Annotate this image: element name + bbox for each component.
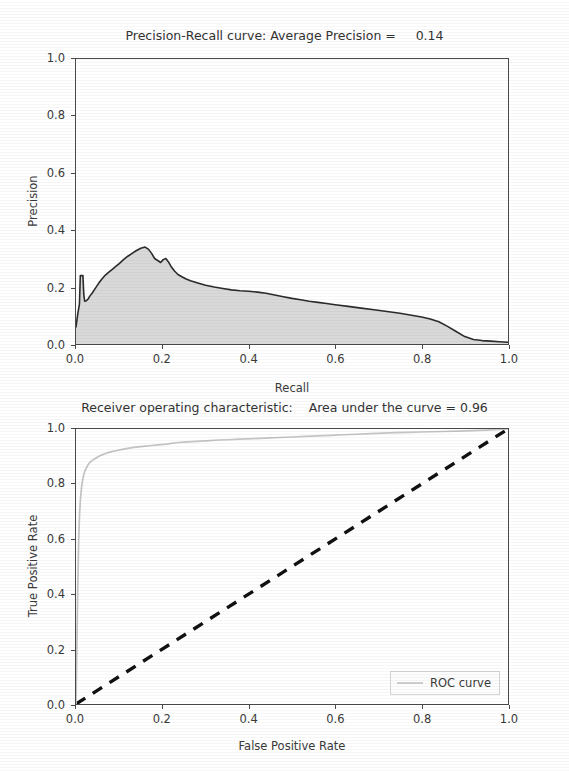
ytick-label: 0.8 xyxy=(33,108,65,122)
precision-recall-fill xyxy=(76,247,508,344)
xtick-mark xyxy=(335,345,336,349)
roc-title: Receiver operating characteristic: Area … xyxy=(0,400,569,415)
precision-recall-panel: Precision-Recall curve: Average Precisio… xyxy=(0,18,569,388)
roc-legend-label: ROC curve xyxy=(430,676,491,690)
ytick-mark xyxy=(71,650,75,651)
xtick-mark xyxy=(249,345,250,349)
ytick-label: 0.0 xyxy=(33,698,65,712)
ytick-label: 1.0 xyxy=(33,421,65,435)
ytick-label: 0.2 xyxy=(33,281,65,295)
ytick-label: 1.0 xyxy=(33,51,65,65)
ytick-mark xyxy=(71,58,75,59)
ytick-mark xyxy=(71,345,75,346)
ytick-label: 0.0 xyxy=(33,338,65,352)
xtick-mark xyxy=(422,345,423,349)
ytick-mark xyxy=(71,115,75,116)
ytick-mark xyxy=(71,230,75,231)
xtick-label: 0.4 xyxy=(239,352,257,366)
precision-recall-curve-svg xyxy=(76,59,508,344)
roc-yaxis-label: True Positive Rate xyxy=(26,515,40,617)
ytick-mark xyxy=(71,173,75,174)
xtick-label: 0.4 xyxy=(239,712,257,726)
ytick-label: 0.2 xyxy=(33,643,65,657)
roc-legend-line-swatch xyxy=(397,682,423,684)
precision-recall-plot-area xyxy=(75,58,509,345)
roc-curve-line xyxy=(76,429,508,704)
xtick-label: 0.8 xyxy=(413,352,431,366)
ytick-mark xyxy=(71,428,75,429)
xtick-mark xyxy=(335,705,336,709)
xtick-mark xyxy=(162,345,163,349)
precision-recall-title: Precision-Recall curve: Average Precisio… xyxy=(0,28,569,43)
xtick-label: 0.8 xyxy=(413,712,431,726)
xtick-label: 0.6 xyxy=(326,352,344,366)
roc-curve-svg xyxy=(76,429,508,704)
xtick-label: 0.0 xyxy=(66,712,84,726)
ytick-mark xyxy=(71,539,75,540)
xtick-mark xyxy=(509,705,510,709)
ytick-mark xyxy=(71,483,75,484)
precision-recall-yaxis-label: Precision xyxy=(26,175,40,226)
xtick-mark xyxy=(75,345,76,349)
ytick-mark xyxy=(71,288,75,289)
ytick-mark xyxy=(71,594,75,595)
roc-panel: Receiver operating characteristic: Area … xyxy=(0,388,569,771)
ytick-label: 0.8 xyxy=(33,476,65,490)
xtick-label: 0.2 xyxy=(153,712,171,726)
xtick-label: 1.0 xyxy=(500,352,518,366)
xtick-mark xyxy=(509,345,510,349)
xtick-mark xyxy=(249,705,250,709)
roc-legend: ROC curve xyxy=(390,671,500,695)
figure-canvas: Precision-Recall curve: Average Precisio… xyxy=(0,0,569,771)
xtick-label: 0.2 xyxy=(153,352,171,366)
roc-chance-diagonal xyxy=(76,429,508,704)
xtick-label: 1.0 xyxy=(500,712,518,726)
xtick-mark xyxy=(422,705,423,709)
xtick-label: 0.0 xyxy=(66,352,84,366)
roc-xaxis-label: False Positive Rate xyxy=(239,739,346,753)
roc-plot-area: ROC curve xyxy=(75,428,509,705)
ytick-mark xyxy=(71,705,75,706)
xtick-mark xyxy=(75,705,76,709)
xtick-mark xyxy=(162,705,163,709)
xtick-label: 0.6 xyxy=(326,712,344,726)
